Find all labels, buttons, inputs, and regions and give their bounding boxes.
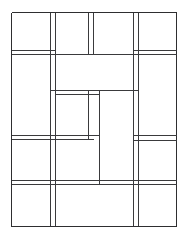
figure-canvas: Rectangular partition line drawing [0,0,190,234]
canvas-background [0,0,190,234]
rectangular-partition-diagram: Rectangular partition line drawing [0,0,190,234]
